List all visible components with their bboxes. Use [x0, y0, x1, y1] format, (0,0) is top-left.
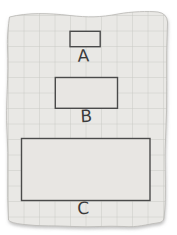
rectangle-a: [70, 31, 100, 46]
rectangle-c-label: C: [77, 198, 90, 218]
grid-paper-figure: A B C: [0, 0, 177, 235]
rectangle-b-label: B: [80, 106, 93, 127]
rectangle-b: [55, 78, 117, 109]
figure-canvas: A B C: [0, 0, 177, 235]
rectangle-c: [22, 139, 151, 201]
rectangle-a-label: A: [77, 45, 90, 65]
